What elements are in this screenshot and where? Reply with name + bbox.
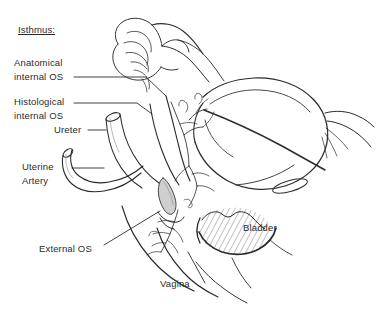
uterine-cavity-contour (205, 90, 310, 157)
cervix-isthmus (150, 96, 190, 185)
uterine-artery (62, 147, 143, 192)
cut-vessel-oval (271, 176, 309, 196)
leader-vagina (188, 252, 205, 283)
right-ligament-vessels (322, 111, 374, 158)
anatomy-illustration (0, 0, 382, 310)
label-vagina: Vagina (160, 278, 190, 291)
label-histological-internal-os-line1: Histological (14, 96, 64, 109)
leader-external-os (104, 211, 160, 245)
label-uterine-artery-line1: Uterine (22, 161, 54, 174)
label-bladder: Bladder (243, 222, 277, 235)
label-ureter: Ureter (54, 124, 81, 137)
label-uterine-artery-line2: Artery (22, 175, 48, 188)
leader-anatomical-internal-os (74, 77, 166, 96)
leader-histological-internal-os (74, 103, 152, 114)
uterine-body (194, 78, 328, 190)
label-external-os: External OS (39, 243, 92, 256)
leader-lines (72, 77, 205, 283)
ureter (105, 111, 159, 188)
broad-ligament-band (204, 110, 325, 170)
cervical-canal (158, 178, 176, 214)
fallopian-tube-fimbriae (113, 18, 224, 92)
figure-canvas: Isthmus: Anatomical internal OS Histolog… (0, 0, 382, 310)
label-anatomical-internal-os-line1: Anatomical (14, 57, 63, 70)
label-isthmus: Isthmus: (18, 24, 55, 37)
label-histological-internal-os-line2: internal OS (14, 110, 63, 123)
label-anatomical-internal-os-line2: internal OS (14, 71, 63, 84)
